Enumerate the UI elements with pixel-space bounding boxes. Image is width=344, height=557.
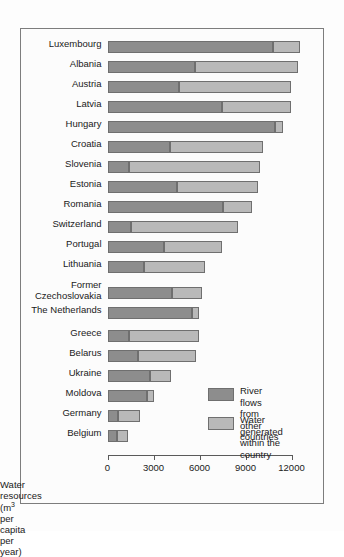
bar-segment-water-generated: [177, 181, 258, 193]
bar-track: [108, 330, 200, 342]
bar-category-label: Switzerland: [16, 218, 102, 229]
bar-row: Hungary: [0, 118, 344, 138]
bar-category-label: Former Czechoslovakia: [16, 279, 102, 301]
bar-row: Germany: [0, 407, 344, 427]
bar-segment-water-generated: [275, 121, 283, 133]
bar-track: [108, 410, 140, 422]
bar-track: [108, 221, 238, 233]
bar-row: Lithuania: [0, 258, 344, 278]
bar-track: [108, 307, 200, 319]
bar-segment-water-generated: [129, 161, 260, 173]
bar-track: [108, 261, 205, 273]
bar-segment-water-generated: [170, 141, 263, 153]
x-axis-tick-label: 9000: [235, 462, 256, 473]
bar-category-label: Slovenia: [16, 158, 102, 169]
bar-segment-river-flows: [108, 41, 274, 53]
bar-row: Portugal: [0, 238, 344, 258]
bar-row: Moldova: [0, 387, 344, 407]
bar-track: [108, 350, 196, 362]
bar-segment-water-generated: [129, 330, 200, 342]
bar-track: [108, 161, 261, 173]
x-axis-tick: [200, 455, 201, 460]
bar-category-label: Albania: [16, 58, 102, 69]
bar-segment-river-flows: [108, 161, 129, 173]
bar-segment-water-generated: [222, 101, 292, 113]
bar-row: Slovenia: [0, 158, 344, 178]
bar-segment-water-generated: [118, 410, 139, 422]
bar-track: [108, 41, 300, 53]
bar-segment-water-generated: [192, 307, 200, 319]
bar-segment-water-generated: [147, 390, 155, 402]
x-axis-tick-label: 12000: [278, 462, 304, 473]
bar-segment-water-generated: [172, 287, 202, 299]
bar-row: Belgium: [0, 427, 344, 447]
bar-category-label: Austria: [16, 78, 102, 89]
bar-category-label: Moldova: [16, 387, 102, 398]
x-axis-tick: [154, 455, 155, 460]
bar-row: Former Czechoslovakia: [0, 284, 344, 304]
x-axis-tick-label: 6000: [189, 462, 210, 473]
bar-segment-water-generated: [195, 61, 298, 73]
bar-segment-water-generated: [179, 81, 292, 93]
legend-label: Water generated within the country: [240, 414, 283, 460]
bar-segment-river-flows: [108, 390, 147, 402]
bar-segment-river-flows: [108, 61, 195, 73]
bar-category-label: Portugal: [16, 238, 102, 249]
x-axis-title-after: per capita per year): [0, 513, 25, 557]
bar-row: Belarus: [0, 347, 344, 367]
bar-segment-river-flows: [108, 410, 119, 422]
bar-segment-river-flows: [108, 181, 177, 193]
bar-category-label: Belgium: [16, 427, 102, 438]
x-axis-tick-label: 3000: [143, 462, 164, 473]
bar-category-label: Lithuania: [16, 258, 102, 269]
bar-row: The Netherlands: [0, 304, 344, 324]
bar-track: [108, 101, 292, 113]
bar-category-label: Belarus: [16, 347, 102, 358]
bar-track: [108, 61, 298, 73]
bar-track: [108, 81, 292, 93]
bar-segment-water-generated: [144, 261, 205, 273]
x-axis-title-exponent: 3: [11, 501, 15, 508]
bar-category-label: Ukraine: [16, 367, 102, 378]
legend-swatch-water-generated: [208, 417, 234, 430]
bar-row: Albania: [0, 58, 344, 78]
bar-category-label: Luxembourg: [16, 38, 102, 49]
bar-track: [108, 121, 284, 133]
bar-category-label: The Netherlands: [16, 304, 102, 315]
bar-segment-river-flows: [108, 121, 276, 133]
bar-segment-water-generated: [131, 221, 238, 233]
bar-segment-water-generated: [138, 350, 196, 362]
bar-row: Croatia: [0, 138, 344, 158]
bar-segment-river-flows: [108, 307, 192, 319]
bar-segment-water-generated: [223, 201, 252, 213]
bar-segment-river-flows: [108, 81, 179, 93]
bar-segment-river-flows: [108, 350, 139, 362]
bar-segment-river-flows: [108, 221, 131, 233]
bar-category-label: Greece: [16, 327, 102, 338]
bar-track: [108, 241, 222, 253]
bar-row: Switzerland: [0, 218, 344, 238]
bar-segment-water-generated: [117, 430, 128, 442]
bar-track: [108, 201, 252, 213]
bar-row: Austria: [0, 78, 344, 98]
x-axis-tick: [292, 455, 293, 460]
bar-track: [108, 287, 202, 299]
bar-row: Romania: [0, 198, 344, 218]
legend-swatch-river-flows: [208, 388, 234, 401]
bar-segment-water-generated: [164, 241, 222, 253]
bar-category-label: Hungary: [16, 118, 102, 129]
bar-track: [108, 430, 129, 442]
bar-category-label: Romania: [16, 198, 102, 209]
bar-segment-river-flows: [108, 101, 222, 113]
bar-segment-river-flows: [108, 430, 118, 442]
bar-track: [108, 370, 172, 382]
bar-segment-river-flows: [108, 330, 129, 342]
bar-row: Ukraine: [0, 367, 344, 387]
bar-segment-river-flows: [108, 241, 165, 253]
bar-segment-water-generated: [150, 370, 171, 382]
x-axis-tick-label: 0: [105, 462, 110, 473]
x-axis-tick: [108, 455, 109, 460]
bar-segment-water-generated: [273, 41, 300, 53]
bar-segment-river-flows: [108, 141, 171, 153]
bar-track: [108, 181, 258, 193]
